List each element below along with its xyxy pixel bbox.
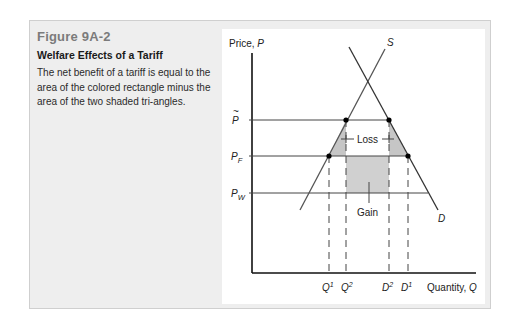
gain-label: Gain: [357, 207, 378, 218]
demand-label: D: [438, 213, 445, 224]
q2-label: Q2: [341, 281, 353, 293]
tariff-welfare-chart: Price, P Quantity, Q S D Loss Gain P ~ P…: [0, 0, 516, 325]
d1-label: D1: [401, 281, 412, 293]
q1-label: Q1: [322, 281, 334, 293]
x-axis-label: Quantity, Q: [427, 282, 477, 293]
point-s-ptilde: [343, 117, 348, 122]
supply-label: S: [387, 37, 394, 48]
gain-rectangle: [346, 156, 389, 193]
point-d-ptilde: [386, 117, 391, 122]
loss-label: Loss: [357, 134, 378, 145]
p-w-label: PW: [231, 188, 246, 202]
y-axis-label: Price, P: [229, 38, 264, 49]
p-f-label: PF: [231, 151, 243, 165]
d2-label: D2: [382, 281, 393, 293]
point-d-pf: [405, 153, 410, 158]
point-s-pf: [326, 153, 331, 158]
p-tilde-mark: ~: [233, 106, 239, 117]
